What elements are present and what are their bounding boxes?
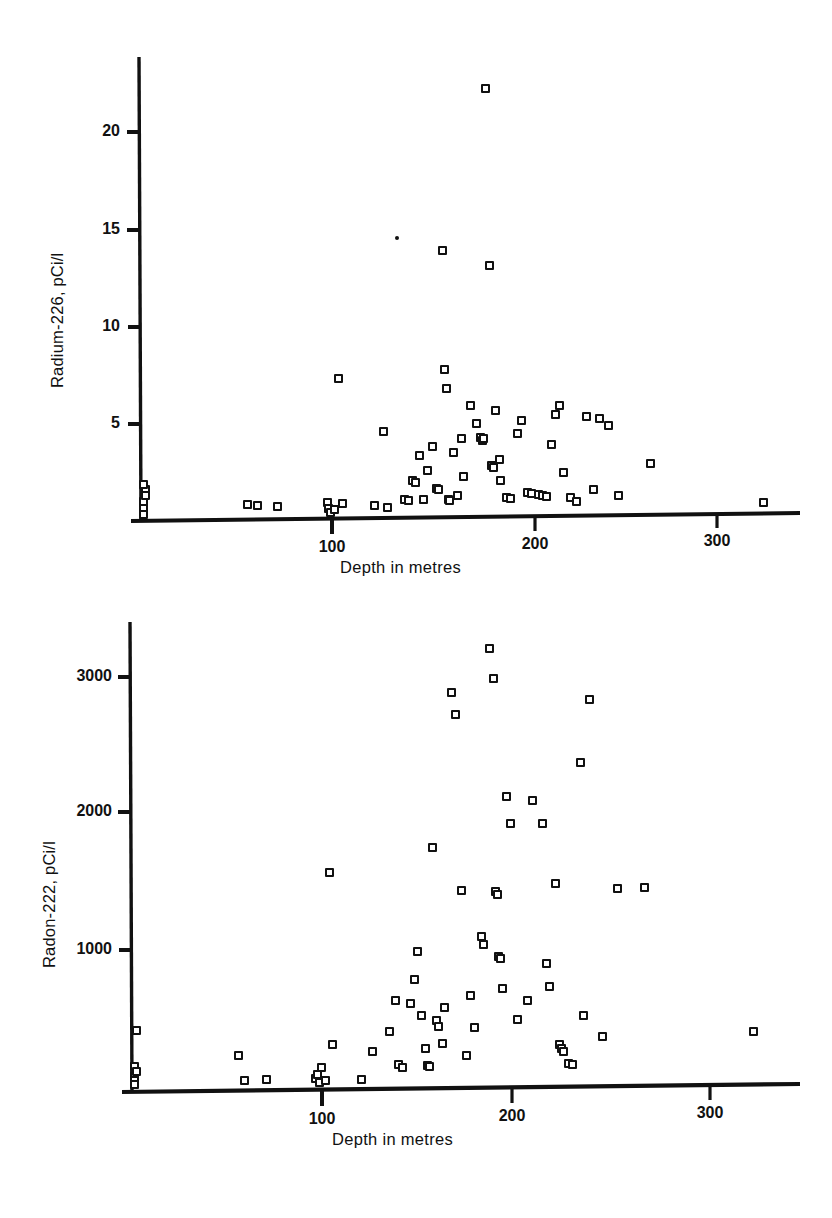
data-point	[417, 1011, 426, 1020]
data-point	[139, 510, 148, 519]
data-point	[457, 434, 466, 443]
data-point	[421, 1044, 430, 1053]
data-point	[273, 502, 282, 511]
data-point	[502, 792, 511, 801]
data-point	[459, 472, 468, 481]
y-tick-label-1000: 1000	[48, 940, 112, 958]
data-point	[132, 1026, 141, 1035]
data-point	[413, 947, 422, 956]
data-point	[528, 796, 537, 805]
data-point	[523, 996, 532, 1005]
data-point	[513, 1015, 522, 1024]
data-point	[406, 999, 415, 1008]
data-point	[491, 406, 500, 415]
y-tick-label-3000: 3000	[48, 667, 112, 685]
data-point	[485, 644, 494, 653]
data-point	[614, 491, 623, 500]
data-point	[466, 401, 475, 410]
data-point	[243, 500, 252, 509]
x-tick-label-300: 300	[692, 532, 742, 550]
data-point	[457, 886, 466, 895]
data-point	[579, 1011, 588, 1020]
data-point	[749, 1027, 758, 1036]
data-point	[141, 491, 150, 500]
data-point	[472, 419, 481, 428]
y-tick-label-2000: 2000	[48, 802, 112, 820]
chart-panel-radon-222: Radon-222, pCi/l 3000 2000 1000 100 200 …	[0, 600, 832, 1218]
data-point	[447, 688, 456, 697]
data-point	[582, 412, 591, 421]
x-tick-label-100: 100	[307, 538, 357, 556]
data-point	[542, 959, 551, 968]
x-axis-label-radium: Depth in metres	[340, 558, 461, 577]
data-point	[498, 984, 507, 993]
data-point	[410, 975, 419, 984]
radium-axes-svg	[0, 0, 832, 600]
data-point	[479, 940, 488, 949]
data-point	[485, 261, 494, 270]
data-point	[542, 492, 551, 501]
data-point	[547, 440, 556, 449]
data-point	[395, 236, 399, 240]
data-point	[253, 501, 262, 510]
data-point	[434, 1022, 443, 1031]
data-point	[419, 495, 428, 504]
data-point	[440, 1003, 449, 1012]
data-point	[506, 494, 515, 503]
data-point	[576, 758, 585, 767]
data-point	[496, 476, 505, 485]
data-point	[391, 996, 400, 1005]
data-point	[317, 1063, 326, 1072]
data-point	[613, 884, 622, 893]
data-point	[411, 478, 420, 487]
data-point	[368, 1047, 377, 1056]
data-point	[559, 1047, 568, 1056]
data-point	[538, 819, 547, 828]
data-point	[595, 414, 604, 423]
data-point	[262, 1075, 271, 1084]
data-point	[370, 501, 379, 510]
data-point	[338, 499, 347, 508]
x-tick-label-200: 200	[487, 1107, 537, 1125]
data-point	[321, 1076, 330, 1085]
x-tick-label-100: 100	[297, 1110, 347, 1128]
data-point	[604, 421, 613, 430]
data-point	[640, 883, 649, 892]
figure-two-scatter-plots: Radium-226, pCi/l 20 15 10 5 100 200 300…	[0, 0, 832, 1218]
x-tick-label-300: 300	[685, 1104, 735, 1122]
y-axis-line	[139, 57, 141, 520]
data-point	[425, 1062, 434, 1071]
data-point	[513, 429, 522, 438]
data-point	[572, 497, 581, 506]
data-point	[334, 374, 343, 383]
data-point	[479, 434, 488, 443]
data-point	[438, 1039, 447, 1048]
data-point	[240, 1076, 249, 1085]
data-point	[585, 695, 594, 704]
chart-panel-radium-226: Radium-226, pCi/l 20 15 10 5 100 200 300…	[0, 0, 832, 600]
y-tick-label-10: 10	[78, 317, 120, 335]
data-point	[559, 468, 568, 477]
data-point	[489, 463, 498, 472]
data-point	[462, 1051, 471, 1060]
data-point	[130, 1080, 139, 1089]
data-point	[428, 442, 437, 451]
x-axis-line	[131, 513, 800, 521]
data-point	[481, 84, 490, 93]
data-point	[383, 503, 392, 512]
data-point	[385, 1027, 394, 1036]
x-axis-line	[122, 1084, 800, 1092]
data-point	[495, 455, 504, 464]
data-point	[545, 982, 554, 991]
y-tick-label-20: 20	[78, 122, 120, 140]
data-point	[496, 954, 505, 963]
x-axis-label-radon: Depth in metres	[332, 1130, 453, 1149]
data-point	[328, 1040, 337, 1049]
data-point	[440, 365, 449, 374]
data-point	[434, 485, 443, 494]
data-point	[551, 879, 560, 888]
data-point	[132, 1067, 141, 1076]
data-point	[489, 674, 498, 683]
data-point	[325, 868, 334, 877]
data-point	[470, 1023, 479, 1032]
